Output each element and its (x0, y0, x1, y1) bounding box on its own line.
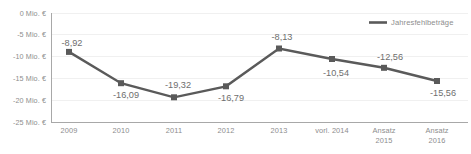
chart-container: 0 Mio. € -5 Mio. € -10 Mio. € -15 Mio. €… (0, 0, 471, 154)
y-tick-label: -25 Mio. € (13, 118, 46, 127)
x-tick-label-2011: 2011 (166, 126, 182, 135)
data-point-label: -16,09 (113, 90, 139, 100)
legend-label-jahresfehlbetraege: Jahresfehlbeträge (391, 18, 454, 27)
x-tick-label-vorl-2014: vorl. 2014 (315, 126, 348, 135)
data-point-label: -12,56 (377, 52, 403, 62)
y-tick-label: -20 Mio. € (13, 96, 46, 105)
x-tick-label-ansatz-2015-line1: Ansatz (372, 126, 395, 135)
x-tick-label-2012: 2012 (218, 126, 235, 135)
legend: Jahresfehlbeträge (369, 18, 454, 27)
y-tick-label: -5 Mio. € (17, 30, 46, 39)
x-tick-label-2009: 2009 (61, 126, 78, 135)
data-point-marker (66, 49, 72, 55)
data-point-label: -10,54 (323, 68, 349, 78)
data-point-marker (434, 78, 440, 84)
line-chart: 0 Mio. € -5 Mio. € -10 Mio. € -15 Mio. €… (0, 0, 471, 154)
y-tick-label: 0 Mio. € (20, 9, 46, 18)
axes (51, 13, 468, 123)
y-axis-tick-labels: 0 Mio. € -5 Mio. € -10 Mio. € -15 Mio. €… (13, 9, 46, 127)
data-point-marker (276, 46, 282, 52)
x-tick-label-2010: 2010 (113, 126, 130, 135)
data-point-label: -19,32 (165, 80, 191, 90)
data-point-label: -15,56 (430, 88, 456, 98)
data-point-marker (171, 94, 177, 100)
data-point-labels: -8,92 -16,09 -19,32 -16,79 -8,13 -10,54 … (62, 32, 457, 103)
data-point-label: -8,13 (272, 32, 293, 42)
x-tick-label-ansatz-2015-line2: 2015 (376, 136, 393, 145)
data-point-marker (329, 56, 335, 62)
data-point-marker (223, 83, 229, 89)
data-point-marker (381, 65, 387, 71)
y-tick-label: -10 Mio. € (13, 52, 46, 61)
y-tick-label: -15 Mio. € (13, 74, 46, 83)
data-point-label: -8,92 (62, 38, 83, 48)
x-tick-label-2013: 2013 (271, 126, 288, 135)
x-axis-tick-labels: 2009 2010 2011 2012 2013 vorl. 2014 Ansa… (61, 126, 449, 145)
data-point-label: -16,79 (218, 93, 244, 103)
x-tick-label-ansatz-2016-line1: Ansatz (425, 126, 448, 135)
data-point-marker (118, 80, 124, 86)
x-tick-label-ansatz-2016-line2: 2016 (429, 136, 446, 145)
